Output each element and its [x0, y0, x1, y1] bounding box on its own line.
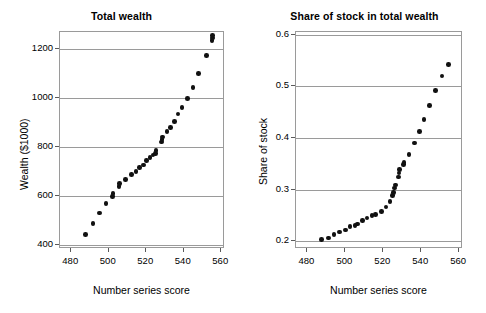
gridline — [296, 190, 461, 191]
x-tick-label: 480 — [286, 255, 326, 266]
scatter-point — [417, 129, 422, 134]
scatter-point — [388, 199, 393, 204]
x-tick-label: 560 — [438, 255, 478, 266]
scatter-point — [191, 85, 196, 90]
x-tick-mark — [183, 248, 184, 252]
scatter-point — [384, 205, 389, 210]
x-tick-mark — [458, 248, 459, 252]
y-tick-mark — [55, 48, 59, 49]
scatter-point — [360, 218, 365, 223]
scatter-point — [141, 163, 146, 168]
scatter-point — [123, 177, 128, 182]
scatter-point — [379, 209, 384, 214]
y-tick-label: 0.6 — [249, 28, 289, 39]
scatter-point — [373, 212, 378, 217]
panel-total-wealth: Total wealth 40060080010001200 480500520… — [0, 0, 243, 313]
scatter-point — [91, 221, 96, 226]
gridline — [60, 196, 223, 197]
y-tick-label: 1000 — [13, 91, 53, 102]
gridline — [296, 138, 461, 139]
y-tick-label: 0.3 — [249, 183, 289, 194]
x-tick-mark — [108, 248, 109, 252]
y-tick-label: 400 — [13, 238, 53, 249]
x-tick-mark — [382, 248, 383, 252]
scatter-point — [365, 216, 370, 221]
scatter-point — [407, 152, 412, 157]
x-tick-label: 500 — [324, 255, 364, 266]
y-tick-mark — [55, 97, 59, 98]
figure-scatter-pair: Total wealth 40060080010001200 480500520… — [0, 0, 486, 313]
y-tick-mark — [291, 189, 295, 190]
scatter-point — [440, 74, 445, 79]
scatter-point — [402, 160, 407, 165]
scatter-point — [446, 62, 451, 67]
scatter-point — [204, 53, 209, 58]
scatter-point — [104, 201, 109, 206]
y-tick-mark — [55, 244, 59, 245]
y-axis-title-share-of-stock: Share of stock — [257, 118, 269, 185]
x-axis-title-share-of-stock: Number series score — [295, 284, 462, 296]
x-tick-mark — [420, 248, 421, 252]
x-tick-label: 520 — [362, 255, 402, 266]
y-tick-label: 600 — [13, 189, 53, 200]
scatter-point — [337, 230, 342, 235]
scatter-point — [129, 172, 134, 177]
panel-share-of-stock: Share of stock in total wealth 0.20.30.4… — [243, 0, 486, 313]
scatter-point — [168, 125, 173, 130]
x-tick-label: 540 — [400, 255, 440, 266]
y-tick-mark — [55, 195, 59, 196]
scatter-point — [433, 88, 438, 93]
plot-area-share-of-stock — [295, 31, 462, 248]
scatter-point — [134, 169, 139, 174]
x-tick-label: 540 — [163, 255, 203, 266]
gridline — [60, 147, 223, 148]
scatter-point — [332, 232, 337, 237]
y-tick-mark — [55, 146, 59, 147]
gridline — [296, 35, 461, 36]
y-tick-mark — [291, 137, 295, 138]
scatter-point — [180, 105, 185, 110]
scatter-point — [355, 222, 360, 227]
y-axis-title-total-wealth: Wealth ($1000) — [18, 118, 30, 190]
scatter-point — [83, 232, 88, 237]
scatter-point — [176, 112, 181, 117]
scatter-point — [391, 190, 396, 195]
plot-area-total-wealth — [59, 31, 224, 248]
gridline — [60, 98, 223, 99]
scatter-point — [396, 175, 401, 180]
scatter-point — [196, 71, 201, 76]
scatter-point — [397, 167, 402, 172]
scatter-point — [427, 103, 432, 108]
x-tick-label: 520 — [125, 255, 165, 266]
x-tick-mark — [70, 248, 71, 252]
panel-title-share-of-stock: Share of stock in total wealth — [243, 10, 486, 22]
scatter-point — [326, 236, 331, 241]
y-tick-label: 0.2 — [249, 234, 289, 245]
scatter-point — [185, 96, 190, 101]
scatter-point — [348, 224, 353, 229]
x-tick-label: 500 — [88, 255, 128, 266]
scatter-point — [117, 181, 122, 186]
scatter-point — [97, 211, 102, 216]
x-tick-mark — [306, 248, 307, 252]
panel-title-total-wealth: Total wealth — [0, 10, 243, 22]
y-tick-label: 0.5 — [249, 79, 289, 90]
scatter-point — [393, 183, 398, 188]
y-tick-mark — [291, 85, 295, 86]
x-axis-title-total-wealth: Number series score — [59, 284, 224, 296]
y-tick-mark — [291, 240, 295, 241]
scatter-point — [160, 135, 165, 140]
scatter-point — [343, 228, 348, 233]
y-tick-mark — [291, 34, 295, 35]
y-tick-label: 0.4 — [249, 131, 289, 142]
scatter-point — [412, 141, 417, 146]
gridline — [60, 245, 223, 246]
x-tick-label: 480 — [50, 255, 90, 266]
x-tick-mark — [344, 248, 345, 252]
x-tick-mark — [145, 248, 146, 252]
scatter-point — [319, 237, 324, 242]
gridline — [60, 49, 223, 50]
scatter-point — [422, 117, 427, 122]
scatter-point — [111, 191, 116, 196]
x-tick-label: 560 — [200, 255, 240, 266]
